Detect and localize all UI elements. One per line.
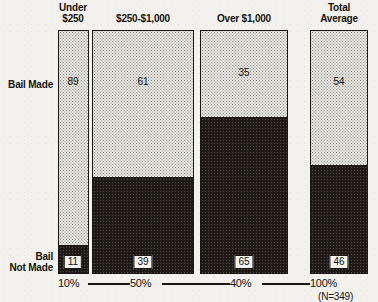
bar-total-average[interactable] <box>310 30 368 274</box>
axis-tick-50pct: 50% <box>130 277 151 289</box>
row-label-bail-not-made: Bail Not Made <box>0 252 53 273</box>
value-label-bail-not-made-over-1000: 65 <box>234 255 253 269</box>
value-label-bail-made-under-250: 89 <box>66 76 79 87</box>
value-label-bail-made-total-average: 54 <box>332 76 345 87</box>
segment-bail-made-total-average <box>311 31 367 167</box>
value-label-bail-not-made-250-1000: 39 <box>133 255 152 269</box>
column-header-250-1000: $250-$1,000 <box>92 14 194 25</box>
column-header-total-average: Total Average <box>306 3 372 24</box>
value-label-bail-not-made-under-250: 11 <box>64 255 82 269</box>
value-label-bail-made-250-1000: 61 <box>136 76 149 87</box>
axis-tick-100pct: 100% <box>310 277 337 289</box>
segment-bail-made-under-250 <box>59 31 88 247</box>
axis-tick-10pct: 10% <box>58 277 79 289</box>
axis-tick-40pct: 40% <box>230 277 251 289</box>
axis-rule-3 <box>262 283 310 285</box>
bar-250-1000[interactable] <box>92 30 194 274</box>
segment-bail-made-250-1000 <box>93 31 193 179</box>
value-label-bail-not-made-total-average: 46 <box>329 255 348 269</box>
sample-size-note: (N=349) <box>318 291 353 302</box>
value-label-bail-made-over-1000: 35 <box>237 67 250 78</box>
row-label-bail-made: Bail Made <box>0 80 53 91</box>
segment-bail-not-made-over-1000 <box>201 117 287 273</box>
column-header-over-1000: Over $1,000 <box>200 14 288 25</box>
column-header-under-250: Under $250 <box>50 3 96 24</box>
axis-rule-2 <box>162 283 230 285</box>
axis-rule-1 <box>88 283 130 285</box>
bar-under-250[interactable] <box>58 30 89 274</box>
